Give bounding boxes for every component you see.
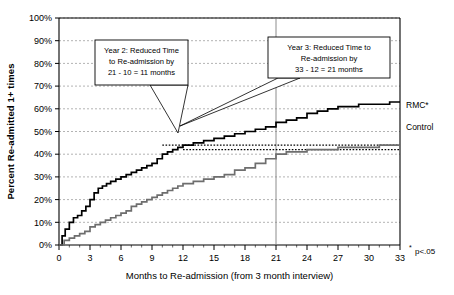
footnote-marker: * — [409, 244, 412, 251]
y-tick-label-70: 70% — [34, 81, 52, 91]
x-tick-label-6: 6 — [118, 253, 123, 263]
x-tick-label-0: 0 — [56, 253, 61, 263]
footnote: *p<.05 — [409, 244, 436, 256]
footnote-text: p<.05 — [415, 247, 436, 256]
x-tick-label-12: 12 — [178, 253, 188, 263]
x-tick-label-33: 33 — [395, 253, 405, 263]
series-line-rmc — [59, 102, 400, 245]
y-tick-label-30: 30% — [34, 172, 52, 182]
figure-container: 0%10%20%30%40%50%60%70%80%90%100%Percent… — [0, 0, 454, 295]
year-3-callout-line-3: 33 - 12 = 21 months — [295, 65, 363, 74]
y-tick-label-80: 80% — [34, 59, 52, 69]
readmission-survival-chart: 0%10%20%30%40%50%60%70%80%90%100%Percent… — [0, 0, 454, 295]
x-tick-label-24: 24 — [302, 253, 312, 263]
y-tick-label-60: 60% — [34, 104, 52, 114]
y-tick-label-40: 40% — [34, 149, 52, 159]
y-axis-label: Percent Re-admitted 1+ times — [5, 63, 16, 199]
year-3-callout-line-1: Year 3: Reduced Time to — [287, 43, 370, 52]
x-tick-label-27: 27 — [333, 253, 343, 263]
year-2-callout-line-1: Year 2: Reduced Time — [104, 46, 179, 55]
y-tick-label-20: 20% — [34, 195, 52, 205]
x-tick-label-9: 9 — [149, 253, 154, 263]
year-2-callout-line-3: 21 - 10 = 11 months — [108, 68, 175, 77]
year-3-callout-pointer — [180, 78, 300, 126]
y-tick-label-100: 100% — [29, 13, 52, 23]
x-tick-label-18: 18 — [240, 253, 250, 263]
x-axis-label: Months to Re-admission (from 3 month int… — [126, 270, 334, 281]
legend-label-rmc: RMC* — [406, 100, 429, 110]
series-line-control — [59, 145, 400, 245]
year-2-callout-line-2: to Re-admission by — [109, 57, 174, 66]
y-tick-label-90: 90% — [34, 36, 52, 46]
y-tick-label-10: 10% — [34, 218, 52, 228]
x-tick-label-21: 21 — [271, 253, 281, 263]
legend-label-control: Control — [406, 122, 434, 132]
y-tick-label-0: 0% — [39, 240, 52, 250]
callouts: Year 2: Reduced Timeto Re-admission by21… — [95, 37, 390, 85]
legend: RMC*Control — [406, 100, 434, 132]
year-3-callout-line-2: Re-admission by — [301, 54, 358, 63]
data-series — [59, 102, 400, 245]
x-axis: 03691215182124273033Months to Re-admissi… — [56, 245, 405, 281]
x-tick-label-3: 3 — [87, 253, 92, 263]
x-tick-label-15: 15 — [209, 253, 219, 263]
y-axis: 0%10%20%30%40%50%60%70%80%90%100%Percent… — [5, 13, 59, 250]
y-tick-label-50: 50% — [34, 127, 52, 137]
x-tick-label-30: 30 — [364, 253, 374, 263]
